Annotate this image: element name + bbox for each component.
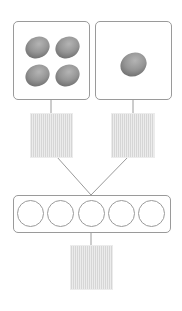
frame-cell[interactable] bbox=[138, 200, 165, 227]
stone-icon bbox=[52, 60, 84, 90]
stone-icon bbox=[22, 60, 54, 90]
connector-right-diagonal bbox=[91, 157, 128, 195]
stone-icon bbox=[22, 32, 54, 62]
frame-cell[interactable] bbox=[17, 200, 44, 227]
right-answer-box[interactable] bbox=[111, 113, 155, 158]
total-answer-box[interactable] bbox=[70, 245, 113, 290]
left-answer-box[interactable] bbox=[30, 113, 73, 158]
left-stone-group: 4 bbox=[13, 21, 90, 100]
frame-cell[interactable] bbox=[78, 200, 105, 227]
right-group-count: 1 bbox=[96, 22, 97, 23]
frame-cell[interactable] bbox=[108, 200, 135, 227]
stone-icon bbox=[116, 48, 151, 81]
five-frame bbox=[13, 195, 171, 233]
connector-left-diagonal bbox=[57, 157, 91, 195]
right-stone-group: 1 bbox=[95, 21, 172, 100]
frame-cell[interactable] bbox=[47, 200, 74, 227]
left-group-count: 4 bbox=[14, 22, 15, 23]
stone-icon bbox=[52, 32, 84, 62]
